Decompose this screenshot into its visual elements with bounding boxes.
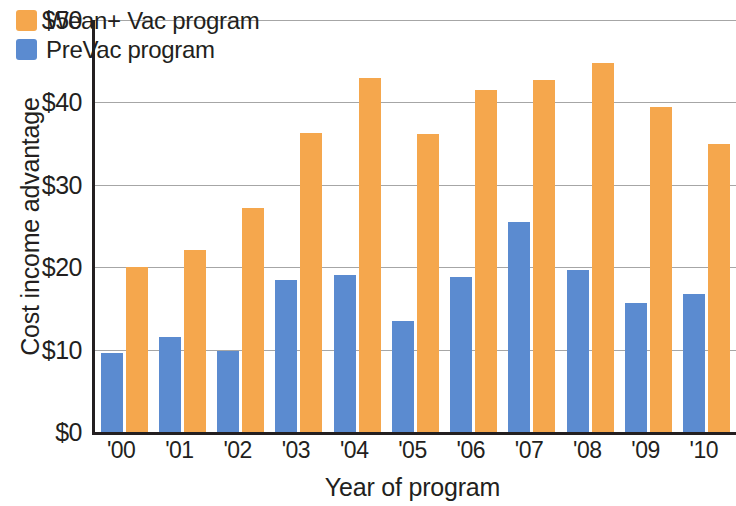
y-axis-tick-label: $30 [28,172,82,197]
bar [450,277,472,432]
bar [392,321,414,432]
bar [592,63,614,432]
x-axis-tick-label: '00 [92,437,150,464]
bar [533,80,555,432]
bar [650,107,672,432]
bar [508,222,530,432]
y-axis-tick-label: $40 [28,90,82,115]
y-axis-tick-label: $10 [28,337,82,362]
bar-group [153,20,211,432]
y-axis-tick-label: $20 [28,255,82,280]
bar [101,353,123,432]
bar-group [445,20,503,432]
legend-swatch-icon [16,10,37,31]
bar [708,144,730,432]
x-axis-tick-label: '02 [209,437,267,464]
bar [275,280,297,432]
legend-label: PreVac program [46,36,215,64]
x-axis-tick-label: '05 [383,437,441,464]
x-axis-tick-label: '04 [325,437,383,464]
bar [159,337,181,432]
x-axis-tick-label: '03 [267,437,325,464]
bar-group [619,20,677,432]
bar [475,90,497,432]
bar-group [561,20,619,432]
legend-label: Wean+ Vac program [46,7,259,35]
bar [126,267,148,432]
bar [334,275,356,432]
bar-group [678,20,736,432]
bar-group [95,20,153,432]
x-axis-tick-label: '01 [150,437,208,464]
bar [300,133,322,432]
bar [184,250,206,432]
bar [359,78,381,432]
bar [242,208,264,432]
bar [625,303,647,432]
y-axis-tick-labels: $0$10$20$30$40$50 [28,0,82,506]
legend-item: Wean+ Vac program [16,6,259,35]
legend-swatch-icon [16,39,37,60]
bar [417,134,439,432]
x-axis-title: Year of program [92,473,733,502]
chart-legend: Wean+ Vac programPreVac program [16,6,259,64]
bar-group [270,20,328,432]
bar-group [503,20,561,432]
x-axis-tick-label: '10 [675,437,733,464]
bar [567,270,589,432]
plot-area [92,20,736,435]
legend-item: PreVac program [16,35,259,64]
x-axis-tick-label: '07 [500,437,558,464]
bar [683,294,705,432]
x-axis-tick-label: '09 [616,437,674,464]
x-axis-tick-label: '08 [558,437,616,464]
x-axis-tick-label: '06 [442,437,500,464]
bar [217,351,239,432]
bar-group [328,20,386,432]
bar-groups [95,20,736,432]
x-axis-tick-labels: '00'01'02'03'04'05'06'07'08'09'10 [92,437,733,464]
bar-group [386,20,444,432]
y-axis-tick-label: $0 [28,420,82,445]
bar-group [212,20,270,432]
